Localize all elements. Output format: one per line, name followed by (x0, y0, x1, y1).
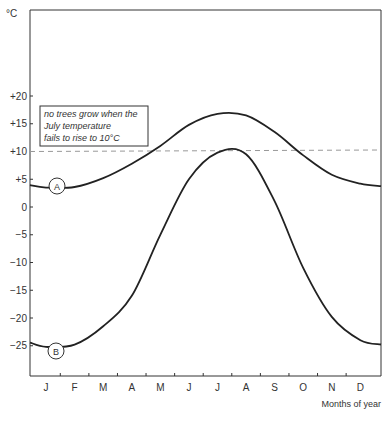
y-tick-label: −5 (16, 229, 28, 240)
y-tick-label: +10 (10, 146, 27, 157)
temperature-chart: °C +20+15+10+50−5−10−15−20−25 JFMAMJJASO… (0, 0, 392, 421)
annotation-line-1: no trees grow when the (44, 109, 138, 119)
annotation-box: no trees grow when the July temperature … (40, 106, 148, 146)
marker-a-label: A (54, 182, 60, 192)
y-tick-label: −25 (10, 340, 27, 351)
x-tick-label: A (128, 382, 135, 393)
x-axis-title: Months of year (321, 399, 381, 409)
y-tick-label: +5 (16, 174, 28, 185)
y-tick-label: +20 (10, 91, 27, 102)
marker-b-label: B (53, 347, 59, 357)
y-axis-unit: °C (6, 8, 17, 19)
y-tick-label: 0 (21, 202, 27, 213)
y-tick-label: −10 (10, 257, 27, 268)
y-tick-label: −15 (10, 285, 27, 296)
plot-frame (30, 10, 381, 376)
threshold-line-10c (30, 150, 381, 152)
y-tick-label: −20 (10, 313, 27, 324)
x-tick-label: F (72, 382, 78, 393)
marker-b: B (48, 343, 64, 359)
x-tick-label: J (215, 382, 220, 393)
y-tick-label: +15 (10, 118, 27, 129)
marker-a: A (49, 178, 65, 194)
x-tick-label: J (44, 382, 49, 393)
x-tick-label: M (156, 382, 164, 393)
annotation-line-2: July temperature (43, 121, 111, 131)
x-tick-label: O (299, 382, 307, 393)
x-tick-label: N (328, 382, 335, 393)
x-tick-label: M (99, 382, 107, 393)
x-tick-label: J (186, 382, 191, 393)
annotation-line-3: fails to rise to 10°C (44, 133, 120, 143)
x-tick-label: S (271, 382, 278, 393)
x-tick-label: D (357, 382, 364, 393)
curve-b (30, 149, 381, 347)
x-tick-label: A (243, 382, 250, 393)
